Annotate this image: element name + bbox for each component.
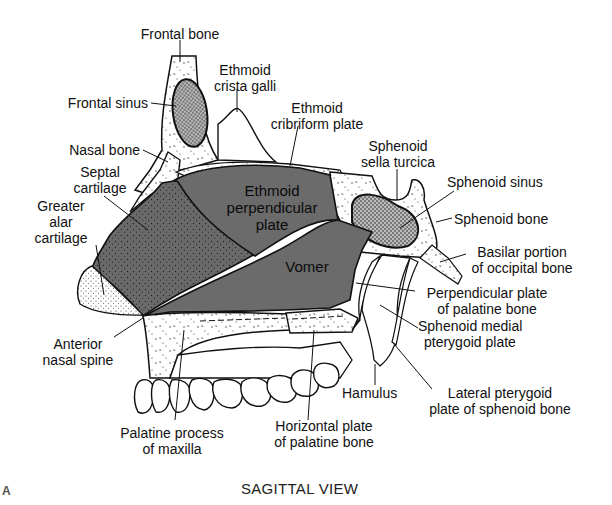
panel-letter: A <box>2 484 11 498</box>
label-horizontal-plate: Horizontal plate of palatine bone <box>262 418 386 450</box>
label-sphenoid-bone: Sphenoid bone <box>454 211 548 227</box>
label-greater-alar-cartilage: Greater alar cartilage <box>26 198 96 246</box>
label-hamulus: Hamulus <box>342 385 397 401</box>
vomer-label: Vomer <box>272 258 342 275</box>
label-sphenoid-sinus: Sphenoid sinus <box>447 174 543 190</box>
label-palatine-process: Palatine process of maxilla <box>110 425 234 457</box>
label-perpendicular-plate-palatine: Perpendicular plate of palatine bone <box>414 285 560 317</box>
label-ethmoid-cribriform-plate: Ethmoid cribriform plate <box>262 100 372 132</box>
label-frontal-bone: Frontal bone <box>130 26 230 42</box>
label-sphenoid-sella-turcica: Sphenoid sella turcica <box>350 138 446 170</box>
horizontal-plate-shape <box>286 309 358 333</box>
label-basilar-portion: Basilar portion of occipital bone <box>460 244 584 276</box>
label-frontal-sinus: Frontal sinus <box>40 95 148 111</box>
basilar-occipital-shape <box>420 245 462 284</box>
label-septal-cartilage: Septal cartilage <box>60 164 140 196</box>
label-lateral-pterygoid: Lateral pterygoid plate of sphenoid bone <box>416 385 584 417</box>
label-anterior-nasal-spine: Anterior nasal spine <box>30 336 126 368</box>
label-ethmoid-crista-galli: Ethmoid crista galli <box>205 62 285 94</box>
ethmoid-perpendicular-plate-label: Ethmoid perpendicular plate <box>212 182 332 233</box>
label-sphenoid-medial-pterygoid: Sphenoid medial pterygoid plate <box>418 318 522 350</box>
label-nasal-bone: Nasal bone <box>40 142 140 158</box>
figure-caption: SAGITTAL VIEW <box>241 480 358 497</box>
